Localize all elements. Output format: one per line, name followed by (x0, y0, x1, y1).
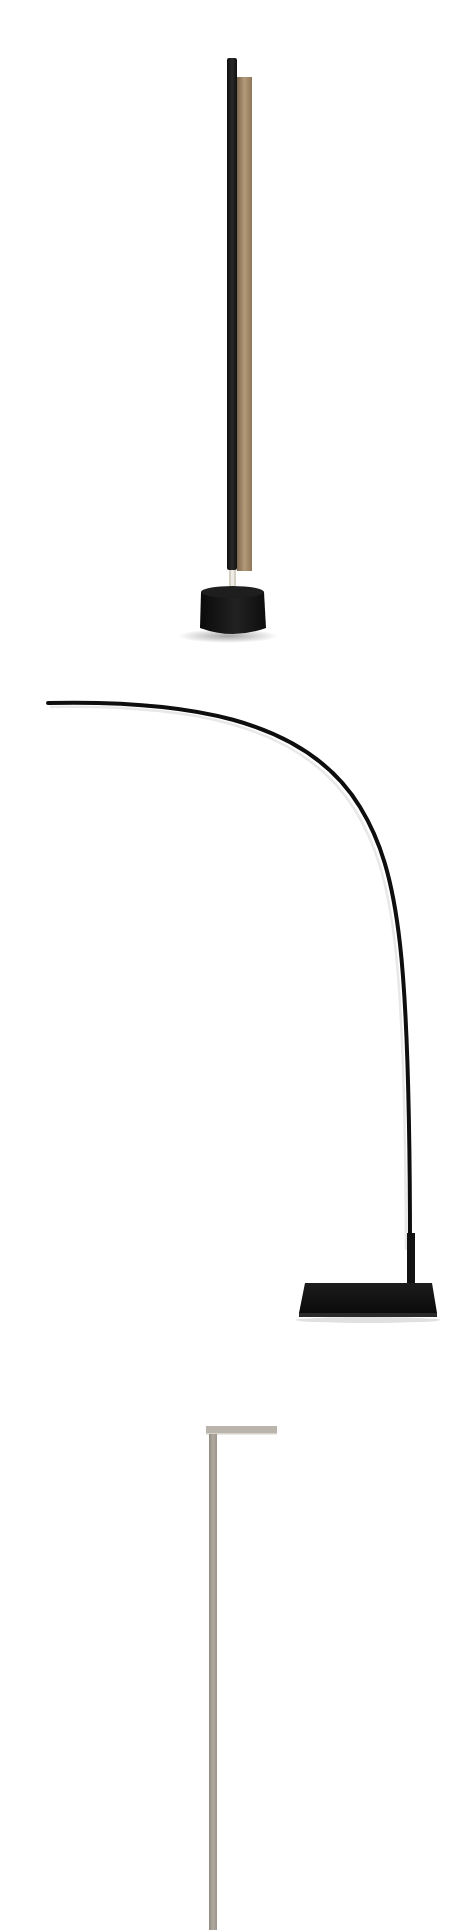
vertical-bar-lamp-illustration (0, 0, 473, 660)
brass-light-panel (237, 77, 252, 571)
stem-neck (407, 1233, 415, 1285)
l-shape-lamp-illustration (0, 1340, 473, 1930)
led-strip-highlight (50, 707, 406, 1250)
product-photo-arc-lamp (0, 660, 473, 1340)
product-photo-l-shape-lamp (0, 1340, 473, 1930)
floor-shadow (296, 1317, 440, 1323)
rectangular-base (299, 1283, 437, 1313)
product-photo-vertical-bar-lamp (0, 0, 473, 660)
base-top-face (201, 586, 264, 598)
arc-lamp-illustration (0, 660, 473, 1340)
lamp-head-bar (206, 1426, 277, 1434)
curved-arm (48, 703, 410, 1250)
slim-pole (209, 1434, 217, 1930)
black-pole (227, 58, 237, 570)
